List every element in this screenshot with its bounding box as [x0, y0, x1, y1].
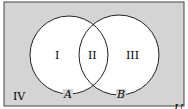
- region-ii-label: II: [88, 49, 97, 62]
- region-iii-label: III: [126, 49, 139, 62]
- set-b-label: B: [116, 88, 125, 101]
- region-i-label: I: [55, 49, 59, 62]
- universe-label: U: [174, 102, 184, 109]
- venn-diagram: I II III IV A B U: [0, 0, 188, 109]
- set-a-label: A: [63, 88, 72, 101]
- region-iv-label: IV: [13, 90, 26, 103]
